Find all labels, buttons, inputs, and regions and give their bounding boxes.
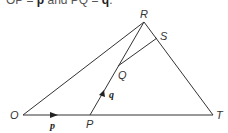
line-QS (118, 38, 157, 66)
line-PR (90, 22, 144, 115)
label-vector-p: p (49, 120, 55, 131)
line-RT (144, 22, 213, 115)
label-P: P (86, 118, 94, 130)
label-T: T (216, 109, 224, 121)
arrow-p-icon (50, 112, 58, 118)
arrow-q-icon (99, 90, 105, 97)
label-S: S (160, 30, 168, 42)
label-Q: Q (118, 69, 127, 81)
label-R: R (140, 8, 148, 20)
label-vector-q: q (109, 89, 114, 100)
label-O: O (10, 109, 19, 121)
geometry-diagram: O P T R S Q p q (0, 0, 228, 133)
